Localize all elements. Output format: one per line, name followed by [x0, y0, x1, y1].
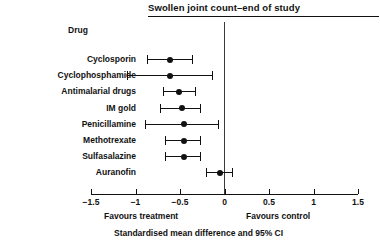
ci-cap-upper [232, 168, 233, 177]
ci-cap-lower [147, 55, 148, 64]
ci-cap-lower [163, 87, 164, 96]
favours-control-label: Favours control [246, 211, 310, 221]
ci-cap-upper [218, 120, 219, 129]
x-axis-tick-label: 0.5 [249, 197, 289, 207]
plot-area [0, 0, 380, 249]
x-axis-tick-label: 1.5 [338, 197, 378, 207]
point-estimate-marker [181, 138, 187, 144]
favours-treatment-label: Favours treatment [104, 211, 178, 221]
ci-cap-upper [192, 55, 193, 64]
x-axis-tick-label: −1.5 [71, 197, 111, 207]
point-estimate-marker [179, 105, 185, 111]
x-axis-tick-label: 0 [205, 197, 245, 207]
point-estimate-marker [167, 73, 173, 79]
ci-cap-upper [212, 71, 213, 80]
point-estimate-marker [181, 121, 187, 127]
x-axis-tick [358, 189, 359, 194]
ci-cap-upper [200, 104, 201, 113]
ci-cap-upper [200, 136, 201, 145]
x-axis-caption: Standardised mean difference and 95% CI [114, 228, 283, 238]
ci-cap-lower [206, 168, 207, 177]
x-axis-tick-label: −0.5 [160, 197, 200, 207]
x-axis-line [91, 194, 358, 195]
point-estimate-marker [181, 154, 187, 160]
ci-cap-upper [195, 87, 196, 96]
ci-cap-lower [145, 120, 146, 129]
reference-line-zero [224, 22, 225, 194]
ci-cap-lower [165, 152, 166, 161]
ci-cap-upper [200, 152, 201, 161]
x-axis-tick [225, 189, 226, 194]
x-axis-tick [136, 189, 137, 194]
x-axis-tick-label: 1 [294, 197, 334, 207]
x-axis-tick-label: −1 [116, 197, 156, 207]
point-estimate-marker [176, 89, 182, 95]
ci-cap-lower [127, 71, 128, 80]
x-axis-tick [91, 189, 92, 194]
ci-cap-lower [165, 136, 166, 145]
x-axis-tick [180, 189, 181, 194]
point-estimate-marker [167, 57, 173, 63]
forest-plot-figure: Swollen joint count–end of study Drug Cy… [0, 0, 380, 249]
x-axis-tick [269, 189, 270, 194]
point-estimate-marker [217, 170, 223, 176]
ci-cap-lower [160, 104, 161, 113]
x-axis-tick [314, 189, 315, 194]
